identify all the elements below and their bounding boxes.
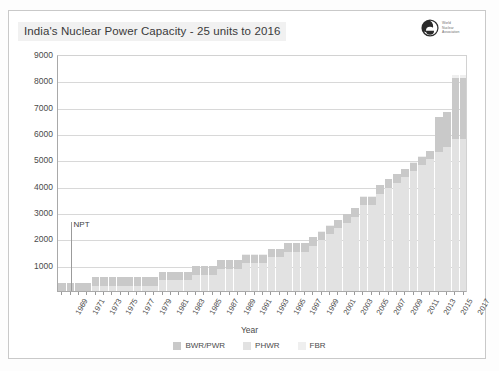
bar-segment [150, 286, 158, 291]
bar-segment [150, 277, 158, 285]
legend-item[interactable]: BWR/PWR [173, 341, 225, 350]
bar-segment [460, 78, 467, 139]
bar-stack [435, 117, 443, 291]
x-tick-mark [321, 292, 322, 295]
bar-stack [284, 243, 292, 291]
x-tick-label: 1999 [325, 297, 341, 316]
bar-segment [393, 183, 401, 291]
x-tick-mark [245, 292, 246, 295]
x-tick-mark [136, 292, 137, 295]
bar-segment [284, 252, 292, 292]
bar-stack [117, 277, 125, 291]
x-tick-label: 2001 [341, 297, 357, 316]
x-tick-mark [346, 292, 347, 295]
bar-stack [134, 277, 142, 291]
x-tick-mark [354, 292, 355, 295]
bar-segment [251, 255, 259, 263]
gridline [58, 82, 466, 83]
bar-segment [301, 252, 309, 292]
y-tick-label: 3000 [34, 208, 53, 218]
legend-swatch [298, 342, 306, 350]
bar-segment [460, 139, 467, 291]
bar-segment [393, 174, 401, 182]
bar-segment [426, 151, 434, 159]
x-tick-label: 1989 [241, 297, 257, 316]
x-tick-label: 1985 [208, 297, 224, 316]
bar-stack [92, 277, 100, 291]
bar-stack [401, 169, 409, 292]
x-tick-mark [404, 292, 405, 295]
bar-segment [284, 243, 292, 251]
bar-segment [410, 171, 418, 291]
bar-stack [125, 277, 133, 291]
bar-stack [418, 156, 426, 291]
bar-segment [242, 263, 250, 291]
bar-stack [293, 243, 301, 291]
x-axis-label: Year [0, 325, 499, 335]
x-tick-mark [70, 292, 71, 295]
bar-stack [83, 283, 91, 291]
y-tick-label: 6000 [34, 129, 53, 139]
bar-stack [452, 75, 460, 291]
bar-segment [276, 257, 284, 291]
bar-segment [217, 260, 225, 268]
bar-segment [167, 272, 175, 280]
chart-legend: BWR/PWRPHWRFBR [0, 341, 499, 350]
x-tick-mark [162, 292, 163, 295]
x-tick-mark [170, 292, 171, 295]
bar-segment [351, 208, 359, 216]
bar-stack [159, 272, 167, 291]
x-tick-mark [438, 292, 439, 295]
bar-segment [58, 283, 66, 291]
x-tick-label: 1969 [74, 297, 90, 316]
bar-stack [184, 272, 192, 291]
bar-segment [109, 277, 117, 285]
bar-stack [351, 208, 359, 291]
bar-segment [410, 163, 418, 171]
bar-segment [226, 260, 234, 268]
legend-swatch [173, 342, 181, 350]
gridline [58, 135, 466, 136]
bar-segment [418, 165, 426, 291]
bar-segment [201, 275, 209, 291]
x-tick-mark [86, 292, 87, 295]
bar-stack [368, 196, 376, 291]
bar-stack [276, 249, 284, 291]
bar-segment [259, 255, 267, 263]
y-tick-label: 4000 [34, 182, 53, 192]
x-tick-label: 2003 [358, 297, 374, 316]
bar-segment [334, 228, 342, 291]
legend-label: BWR/PWR [185, 341, 225, 350]
bar-segment [293, 252, 301, 292]
bar-segment [100, 286, 108, 291]
x-tick-mark [254, 292, 255, 295]
bar-segment [184, 280, 192, 291]
x-tick-mark [212, 292, 213, 295]
bar-segment [318, 240, 326, 291]
bar-segment [351, 217, 359, 291]
wna-mark-icon [421, 19, 439, 37]
bar-segment [326, 234, 334, 291]
bar-stack [175, 272, 183, 291]
bar-segment [276, 249, 284, 257]
y-tick-label: 9000 [34, 50, 53, 60]
x-tick-label: 2009 [408, 297, 424, 316]
x-tick-mark [379, 292, 380, 295]
x-tick-mark [396, 292, 397, 295]
bar-stack [142, 277, 150, 291]
legend-item[interactable]: FBR [298, 341, 326, 350]
legend-item[interactable]: PHWR [243, 341, 279, 350]
x-tick-mark [421, 292, 422, 295]
x-tick-mark [388, 292, 389, 295]
y-tick-label: 8000 [34, 76, 53, 86]
x-tick-mark [329, 292, 330, 295]
bar-segment [259, 263, 267, 291]
bar-segment [83, 283, 91, 291]
bar-segment [376, 194, 384, 291]
x-tick-mark [229, 292, 230, 295]
bar-stack [209, 266, 217, 291]
x-tick-label: 1991 [258, 297, 274, 316]
bar-segment [92, 286, 100, 291]
bar-segment [443, 147, 451, 291]
bar-segment [209, 266, 217, 274]
